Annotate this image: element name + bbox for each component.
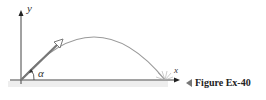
caption-text: Figure Ex-40 (195, 77, 251, 88)
ground-shading (8, 81, 168, 87)
angle-label: α (38, 67, 44, 79)
x-axis-label: x (174, 65, 178, 75)
caption-marker-icon (186, 79, 192, 87)
figure-caption: Figure Ex-40 (186, 77, 251, 88)
y-axis-label: y (27, 2, 32, 14)
y-axis-arrow-icon (19, 10, 24, 16)
x-axis-arrow-icon (174, 78, 180, 83)
